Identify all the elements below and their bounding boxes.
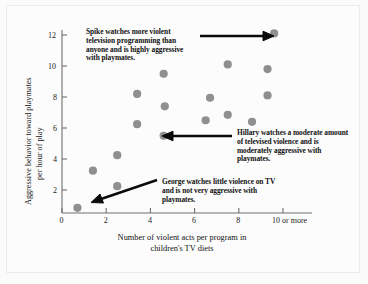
data-point <box>113 151 121 159</box>
y-tick-label-6: 6 <box>53 124 57 133</box>
data-point <box>89 167 97 175</box>
x-tick-label-10-or-more: 10 or more <box>272 216 307 225</box>
x-tick-label-2: 2 <box>104 216 108 225</box>
y-tick-label-10: 10 <box>48 62 56 71</box>
y-tick-label-2: 2 <box>53 186 57 195</box>
arrow-spike <box>200 31 274 41</box>
y-tick-label-4: 4 <box>53 155 57 164</box>
data-point <box>202 116 210 124</box>
y-axis-ticks <box>62 35 67 190</box>
x-axis-label-line2: children's TV diets <box>62 244 302 255</box>
x-tick-label-8: 8 <box>236 216 240 225</box>
annotation-george: George watches little violence on TV and… <box>162 178 282 204</box>
x-axis-label-line1: Number of violent acts per program in <box>62 233 302 244</box>
y-tick-label-12: 12 <box>48 31 56 40</box>
x-tick-label-6: 6 <box>192 216 196 225</box>
data-point <box>263 65 271 73</box>
y-axis-label-line2: per hour of play <box>35 127 44 180</box>
annotation-hillary: Hillary watches a moderate amount of tel… <box>237 129 349 164</box>
x-axis-label: Number of violent acts per program in ch… <box>62 233 302 254</box>
annotation-spike: Spike watches more violent television pr… <box>86 28 198 63</box>
data-point <box>224 111 232 119</box>
x-tick-label-0: 0 <box>60 216 64 225</box>
data-point <box>224 60 232 68</box>
y-tick-label-8: 8 <box>53 93 57 102</box>
data-point <box>133 90 141 98</box>
data-point <box>206 94 214 102</box>
y-axis-label-line1: Aggressive behavior toward playmates <box>24 77 33 205</box>
arrow-hillary <box>162 131 232 141</box>
x-tick-label-4: 4 <box>148 216 152 225</box>
data-point <box>113 182 121 190</box>
scatter-plot-figure: 12 10 8 6 4 2 0 2 4 6 8 10 or more Aggre… <box>0 0 368 284</box>
data-point <box>263 91 271 99</box>
arrow-george <box>91 180 157 203</box>
data-point <box>161 102 169 110</box>
data-point <box>160 70 168 78</box>
x-axis-ticks <box>62 208 283 213</box>
data-point <box>133 120 141 128</box>
data-point <box>248 118 256 126</box>
data-point <box>73 204 81 212</box>
